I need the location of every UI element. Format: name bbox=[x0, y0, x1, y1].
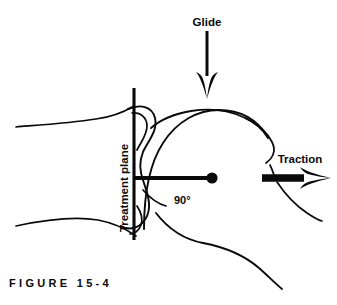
glide-label: Glide bbox=[193, 16, 222, 28]
convex-head-superior-outline bbox=[151, 110, 268, 138]
treatment-plane-label: Treatment plane bbox=[118, 144, 130, 232]
glide-arrow bbox=[196, 31, 218, 99]
figure-caption: FIGURE 15-4 bbox=[9, 277, 112, 289]
upper-shaft-contour bbox=[16, 106, 134, 127]
traction-arrow-head bbox=[300, 167, 331, 189]
convex-head-arc bbox=[144, 110, 268, 229]
axis-endpoint-dot bbox=[206, 172, 217, 183]
traction-label: Traction bbox=[278, 153, 323, 165]
right-superior-contour bbox=[246, 118, 274, 163]
glide-arrow-head bbox=[196, 72, 218, 99]
right-contour-lower bbox=[277, 182, 322, 221]
angle-label: 90° bbox=[174, 194, 191, 206]
socket-notch-lower bbox=[130, 206, 142, 234]
figure-container: Glide Traction 90° Treatment plane FIGUR… bbox=[0, 0, 337, 305]
inferior-sweep-contour bbox=[156, 213, 282, 289]
anatomical-diagram: Glide Traction 90° Treatment plane bbox=[0, 0, 337, 305]
right-contour-stub-upper bbox=[270, 165, 274, 175]
